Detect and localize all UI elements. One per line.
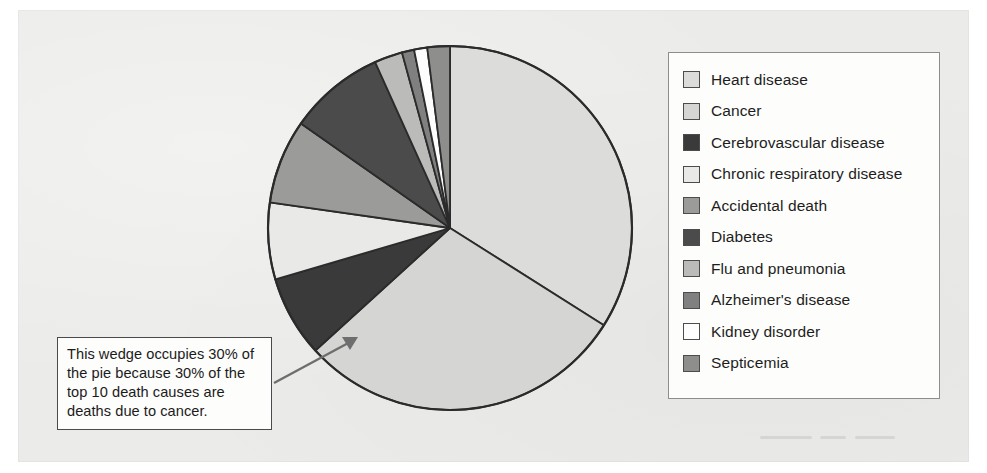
legend-swatch-icon [683, 292, 700, 309]
pie-slice-group [268, 46, 632, 410]
legend-item-label: Alzheimer's disease [711, 291, 850, 309]
legend-swatch-icon [683, 103, 700, 120]
legend-item-label: Chronic respiratory disease [711, 165, 902, 183]
legend-item-label: Accidental death [711, 197, 827, 215]
legend-swatch-icon [683, 323, 700, 340]
legend-item-label: Cancer [711, 102, 762, 120]
legend-swatch-icon [683, 134, 700, 151]
legend-swatch-icon [683, 197, 700, 214]
legend-swatch-icon [683, 71, 700, 88]
callout-text: This wedge occupies 30% of the pie becau… [67, 345, 263, 421]
legend-item-label: Septicemia [711, 354, 789, 372]
legend-swatch-icon [683, 166, 700, 183]
figure-page: This wedge occupies 30% of the pie becau… [0, 0, 987, 473]
callout-box: This wedge occupies 30% of the pie becau… [57, 337, 272, 430]
legend-swatch-icon [683, 355, 700, 372]
legend-swatch-icon [683, 229, 700, 246]
legend-item-chronic-respiratory-disease[interactable]: Chronic respiratory disease [683, 159, 929, 191]
legend-item-accidental-death[interactable]: Accidental death [683, 190, 929, 222]
legend-item-flu-and-pneumonia[interactable]: Flu and pneumonia [683, 253, 929, 285]
legend-item-heart-disease[interactable]: Heart disease [683, 64, 929, 96]
legend-item-label: Cerebrovascular disease [711, 134, 885, 152]
legend-item-label: Diabetes [711, 228, 773, 246]
legend-item-septicemia[interactable]: Septicemia [683, 348, 929, 380]
legend-item-diabetes[interactable]: Diabetes [683, 222, 929, 254]
legend-swatch-icon [683, 260, 700, 277]
legend-item-cerebrovascular-disease[interactable]: Cerebrovascular disease [683, 127, 929, 159]
chart-legend: Heart disease Cancer Cerebrovascular dis… [668, 52, 940, 399]
legend-item-label: Flu and pneumonia [711, 260, 845, 278]
legend-item-cancer[interactable]: Cancer [683, 96, 929, 128]
legend-item-alzheimers-disease[interactable]: Alzheimer's disease [683, 285, 929, 317]
legend-item-kidney-disorder[interactable]: Kidney disorder [683, 316, 929, 348]
legend-item-label: Heart disease [711, 71, 808, 89]
legend-item-label: Kidney disorder [711, 323, 820, 341]
